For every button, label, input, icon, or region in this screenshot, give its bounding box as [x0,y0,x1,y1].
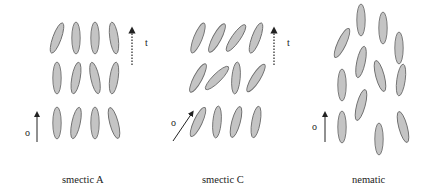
molecule [244,62,268,94]
layer-normal-label: t [145,37,148,48]
molecule [53,62,61,94]
molecule [206,22,228,54]
molecule [69,62,83,95]
molecule [230,62,241,95]
molecule [88,61,103,94]
molecule [108,62,121,95]
molecule [249,106,263,139]
panel-smectic-a: o smectic A [25,22,132,185]
molecule [375,123,383,155]
panel-nematic: t o nematic [287,4,411,185]
molecule [69,106,84,139]
smectic-a-molecules [48,22,123,140]
molecule [106,106,122,139]
molecule [53,107,61,139]
molecule [338,111,346,143]
molecule [223,22,248,53]
molecule [354,45,369,78]
molecule [395,110,411,143]
director-label: o [171,117,176,128]
molecule [187,106,208,139]
director-label: o [312,121,317,132]
layer-normal-label: t [287,37,290,48]
director-label: o [25,127,30,138]
molecule [188,22,208,55]
molecule [211,106,222,139]
molecule [331,27,352,60]
molecule [372,59,388,92]
molecule [395,32,403,64]
caption-smectic-c: smectic C [202,174,244,185]
molecule [357,4,365,36]
molecule [379,12,387,44]
molecule [48,22,67,55]
molecule [228,105,244,138]
smectic-c-molecules [187,22,268,139]
molecule [353,88,369,121]
molecule [91,107,99,139]
molecule [108,22,121,55]
caption-smectic-a: smectic A [62,174,104,185]
liquid-crystal-phases-diagram: o smectic A t o smectic C t o nematic [0,0,428,195]
nematic-molecules [331,4,411,155]
molecule [72,22,80,54]
molecule [247,22,266,55]
molecule [203,64,232,93]
molecule [395,64,408,97]
panel-smectic-c: t o smectic C [145,22,274,185]
caption-nematic: nematic [352,174,386,185]
molecule [91,22,99,54]
molecule [338,69,346,101]
